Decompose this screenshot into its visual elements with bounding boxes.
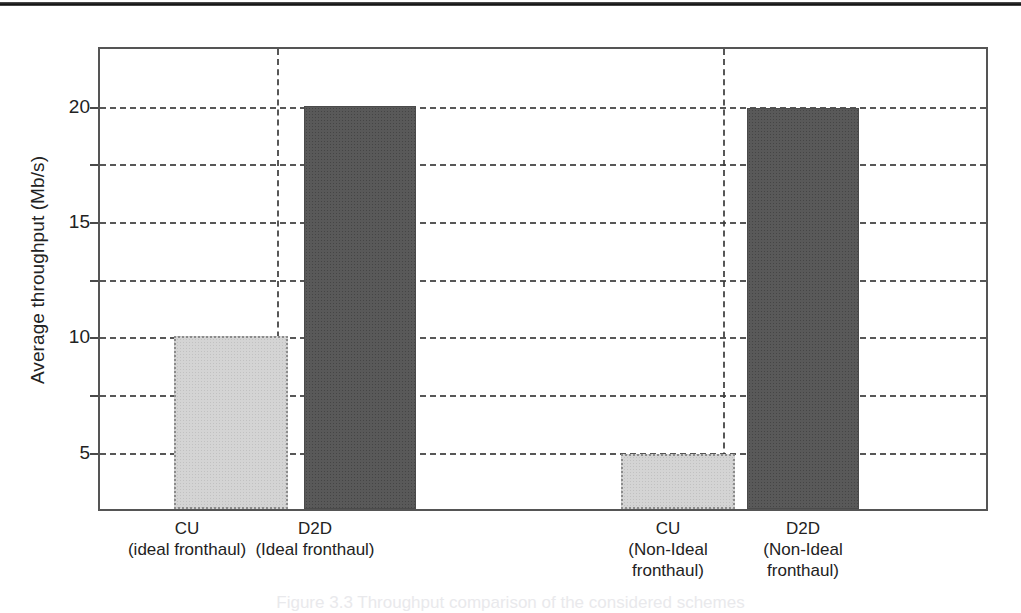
x-label-line1: D2D (185, 518, 445, 539)
y-tick-label-15: 15 (44, 212, 90, 231)
bar-d2d-nonideal[interactable] (747, 108, 859, 509)
bar-d2d-ideal[interactable] (304, 106, 416, 509)
bar-cu-nonideal[interactable] (621, 454, 735, 509)
x-label-line2: (Non-Ideal (598, 539, 738, 560)
y-tick-label-5: 5 (44, 443, 90, 462)
y-tick-label-20: 20 (44, 97, 90, 116)
y-tick-label-10: 10 (44, 327, 90, 346)
x-label-line2: (Ideal fronthaul) (185, 539, 445, 560)
x-label-line3: fronthaul) (733, 560, 873, 581)
x-category-label-d2d-ideal: D2D (Ideal fronthaul) (185, 518, 445, 560)
group-separator-2 (723, 49, 725, 509)
x-category-label-d2d-nonideal: D2D (Non-Ideal fronthaul) (733, 518, 873, 581)
x-label-line1: CU (598, 518, 738, 539)
x-label-line3: fronthaul) (598, 560, 738, 581)
x-label-line1: D2D (733, 518, 873, 539)
bar-cu-ideal[interactable] (174, 336, 288, 509)
plot-area (98, 47, 988, 511)
x-category-label-cu-nonideal: CU (Non-Ideal fronthaul) (598, 518, 738, 581)
figure-caption: Figure 3.3 Throughput comparison of the … (0, 593, 1021, 613)
x-label-line2: (Non-Ideal (733, 539, 873, 560)
y-axis-tick-labels: 20 15 10 5 (36, 0, 90, 607)
plot-inner (100, 49, 986, 509)
